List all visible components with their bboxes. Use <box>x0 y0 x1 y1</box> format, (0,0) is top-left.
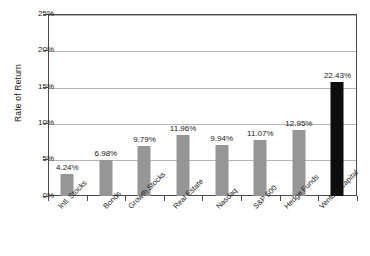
bar-nasdaq[interactable] <box>215 145 228 196</box>
bar-value-label: 6.98% <box>95 149 118 158</box>
x-tick-mark <box>280 196 281 201</box>
bar-slot: 12.95% <box>280 14 319 196</box>
x-tick-mark <box>87 196 88 201</box>
x-tick-mark <box>318 196 319 201</box>
bar-sp-500[interactable] <box>254 140 267 196</box>
bar-value-label: 22.43% <box>324 71 351 80</box>
bar-value-label: 11.07% <box>247 129 274 138</box>
y-axis-title: Rate of Return <box>13 53 23 133</box>
bar-value-label: 4.24% <box>56 163 79 172</box>
x-tick-mark <box>241 196 242 201</box>
x-tick-mark <box>164 196 165 201</box>
x-tick-mark <box>357 196 358 201</box>
bar-value-label: 12.95% <box>285 119 312 128</box>
bar-slot: 11.07% <box>241 14 280 196</box>
bar-value-label: 9.94% <box>210 134 233 143</box>
bar-slot: 9.79% <box>125 14 164 196</box>
bar-value-label: 11.96% <box>170 124 197 133</box>
bar-value-label: 9.79% <box>133 135 156 144</box>
x-tick-mark <box>48 196 49 201</box>
bars-layer: 4.24% 6.98% 9.79% 11.96% 9.94% 11.07% 12… <box>48 14 357 196</box>
bar-slot: 11.96% <box>164 14 203 196</box>
bar-slot: 6.98% <box>87 14 126 196</box>
x-tick-mark <box>125 196 126 201</box>
bar-bonds[interactable] <box>99 160 112 196</box>
bar-slot: 4.24% <box>48 14 87 196</box>
bar-chart: Rate of Return 25% 20% 15% 10% 5% 0% 4.2… <box>0 0 370 256</box>
x-tick-mark <box>202 196 203 201</box>
bar-slot: 9.94% <box>202 14 241 196</box>
